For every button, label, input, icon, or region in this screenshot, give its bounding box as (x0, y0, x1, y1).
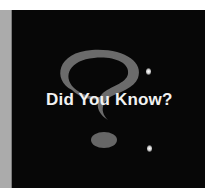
did-you-know-graphic: Did You Know? (0, 10, 205, 188)
sparkle-icon (146, 68, 151, 75)
side-strip (0, 10, 12, 188)
graphic-title: Did You Know? (46, 90, 173, 110)
sparkle-icon (147, 145, 152, 152)
graphic-panel: Did You Know? (12, 10, 205, 188)
